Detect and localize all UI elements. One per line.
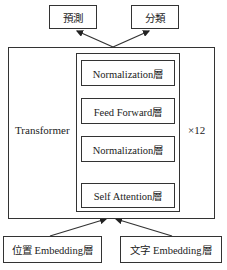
output-predict-box: 預測 (49, 5, 97, 29)
layer-normalization-bottom: Normalization層 (81, 136, 175, 162)
input-position-embedding-label: 位置 Embedding層 (12, 242, 93, 257)
layer-label: Normalization層 (93, 66, 164, 81)
layer-feed-forward: Feed Forward層 (81, 98, 175, 124)
input-text-embedding-label: 文字 Embedding層 (130, 242, 211, 257)
output-classify-label: 分類 (145, 10, 165, 25)
layer-label: Feed Forward層 (94, 104, 163, 119)
layer-normalization-top: Normalization層 (81, 60, 175, 86)
layer-label: Normalization層 (93, 142, 164, 157)
input-position-embedding-box: 位置 Embedding層 (3, 236, 102, 263)
output-predict-label: 預測 (63, 10, 83, 25)
transformer-label: Transformer (15, 124, 70, 136)
output-classify-box: 分類 (131, 5, 179, 29)
layer-label: Self Attention層 (94, 188, 163, 203)
layer-self-attention: Self Attention層 (81, 183, 175, 208)
repeat-count-label: ×12 (188, 124, 205, 136)
input-text-embedding-box: 文字 Embedding層 (120, 236, 222, 263)
